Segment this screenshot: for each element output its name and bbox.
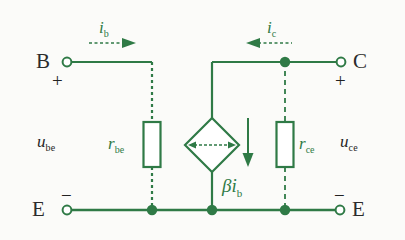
polarity-sign-collector: +: [335, 71, 346, 90]
current-arrow-ic-head: [246, 38, 260, 48]
current-ic-subscript: c: [272, 28, 276, 39]
terminal-node-emitter-left[interactable]: [63, 206, 72, 215]
terminal-label-base: B: [36, 51, 50, 72]
junction-dot-rbe-bottom: [147, 205, 157, 215]
current-label-ic: ic: [267, 19, 276, 39]
component-rce-subscript: ce: [306, 144, 315, 155]
dependent-source-value-symbol: βi: [222, 175, 237, 196]
component-rce-symbol: r: [299, 134, 306, 153]
terminal-node-base[interactable]: [63, 58, 72, 67]
circuit-diagram: B + C + E − E − ube uce ib ic rbe rce βi…: [0, 0, 405, 240]
polarity-sign-emitter-left: −: [61, 186, 72, 205]
polarity-sign-emitter-right: −: [334, 186, 345, 205]
resistor-rbe-body: [144, 122, 161, 167]
junction-dot-rce-bottom: [280, 205, 290, 215]
component-rbe-symbol: r: [108, 134, 115, 153]
terminal-label-emitter-left: E: [32, 199, 45, 220]
voltage-label-ube: ube: [37, 133, 55, 153]
dependent-source-value-subscript: b: [237, 187, 243, 199]
voltage-ube-subscript: be: [46, 142, 56, 153]
component-rbe-subscript: be: [115, 144, 124, 155]
dependent-source-label: βib: [222, 176, 242, 199]
voltage-uce-symbol: u: [340, 132, 349, 151]
resistor-rce-body: [277, 122, 294, 167]
terminal-node-emitter-right[interactable]: [336, 206, 345, 215]
terminal-label-emitter-right: E: [352, 199, 365, 220]
current-ib-subscript: b: [104, 28, 109, 39]
voltage-uce-subscript: ce: [349, 142, 358, 153]
voltage-ube-symbol: u: [37, 132, 46, 151]
terminal-node-collector[interactable]: [337, 58, 346, 67]
voltage-label-uce: uce: [340, 133, 358, 153]
current-label-ib: ib: [99, 19, 109, 39]
terminal-label-collector: C: [353, 51, 367, 72]
source-current-arrow-head: [243, 153, 254, 167]
junction-dot-source-bottom: [207, 205, 217, 215]
junction-dot-collector-top: [280, 57, 290, 67]
current-arrow-ib-head: [122, 38, 136, 48]
component-label-rce: rce: [299, 135, 315, 155]
polarity-sign-base: +: [52, 71, 63, 90]
component-label-rbe: rbe: [108, 135, 124, 155]
